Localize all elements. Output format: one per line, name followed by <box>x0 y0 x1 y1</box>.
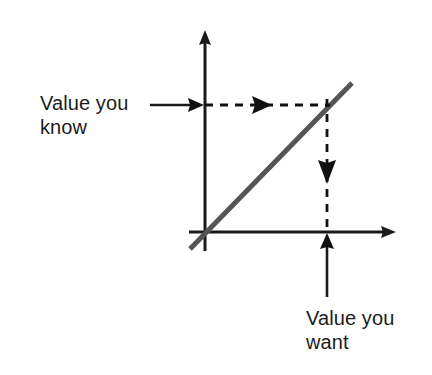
horizontal-dashed-guide-group <box>205 96 330 114</box>
known-value-label: Value you know <box>40 91 128 139</box>
x-axis-arrowhead <box>381 226 396 238</box>
wanted-value-pointer-arrowhead <box>320 233 334 249</box>
calibration-curve-figure: Value you know Value you want <box>0 0 432 375</box>
vertical-dashed-guide-arrowhead <box>318 160 336 184</box>
known-value-pointer-group <box>150 98 204 112</box>
wanted-value-label: Value you want <box>306 306 394 354</box>
y-axis-arrowhead <box>199 30 211 45</box>
wanted-value-pointer-group <box>320 233 334 297</box>
horizontal-dashed-guide-arrowhead <box>252 96 272 114</box>
vertical-dashed-guide-group <box>318 99 336 232</box>
known-value-pointer-arrowhead <box>188 98 204 112</box>
